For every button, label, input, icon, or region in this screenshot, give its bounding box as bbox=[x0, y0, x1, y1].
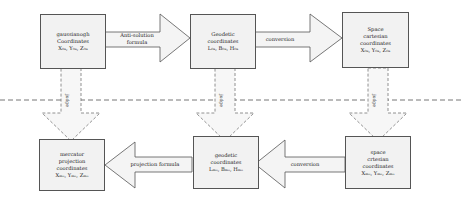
box-line: Coordinates bbox=[57, 38, 89, 45]
label-line: projection formula bbox=[131, 161, 180, 167]
label-anti-solution: Anti-solution formula bbox=[112, 32, 162, 46]
box-line: coordinates bbox=[208, 38, 239, 45]
box-line: Space bbox=[368, 26, 384, 33]
box-line: cartesian bbox=[363, 33, 387, 40]
label-line: conversion bbox=[291, 161, 320, 167]
label-conversion-bottom: conversion bbox=[270, 161, 340, 168]
label-judge-3: judge bbox=[372, 94, 377, 107]
box-line: Lₘₒ, Bₘₒ, Hₘₒ bbox=[209, 166, 243, 173]
vertical-arrow-2 bbox=[196, 68, 254, 141]
box-line: geodetic bbox=[215, 152, 238, 159]
box-line: coordinates bbox=[211, 159, 242, 166]
box-space-cartesian-top: Space cartesian coordinates X₀ₐ, Y₀ₐ, Z₀… bbox=[342, 12, 409, 68]
box-line: X₀ₐ, Y₀ₐ, Z₀ₐ bbox=[58, 45, 88, 52]
box-space-cartesian-bottom: space crtesian coordinates Xₘₒ, Yₘₒ, Zₘₒ bbox=[345, 136, 411, 189]
label-judge-2: judge bbox=[219, 94, 224, 107]
label-conversion-top: conversion bbox=[255, 36, 305, 43]
box-line: Geodetic bbox=[211, 31, 234, 38]
box-line: space bbox=[370, 149, 385, 156]
label-line: Anti-solution bbox=[112, 32, 162, 39]
vertical-arrow-3 bbox=[349, 68, 407, 141]
box-line: L₀ₐ, B₀ₐ, H₀ₐ bbox=[208, 45, 239, 52]
vertical-arrow-1 bbox=[42, 68, 100, 141]
box-line: coordinates bbox=[363, 163, 394, 170]
box-line: crtesian bbox=[367, 156, 388, 163]
box-line: projection bbox=[59, 158, 86, 165]
box-mercator-projection: mercator projection coordinates Xₘₒ, Yₘₒ… bbox=[39, 139, 105, 191]
label-line: conversion bbox=[266, 36, 295, 42]
box-line: coordinates bbox=[360, 40, 391, 47]
label-judge-1: judge bbox=[65, 94, 70, 107]
label-projection-formula: projection formula bbox=[120, 161, 190, 168]
box-line: Xₘₒ, Yₘₒ, Zₘₒ bbox=[362, 170, 395, 177]
box-line: gaussianogh bbox=[57, 31, 90, 38]
label-line: formula bbox=[112, 39, 162, 46]
box-line: X₀ₐ, Y₀ₐ, Z₀ₐ bbox=[361, 47, 391, 54]
box-line: mercator bbox=[60, 151, 84, 158]
box-line: coordinates bbox=[57, 165, 88, 172]
box-gauss-coordinates: gaussianogh Coordinates X₀ₐ, Y₀ₐ, Z₀ₐ bbox=[40, 14, 106, 69]
box-geodetic-bottom: geodetic coordinates Lₘₒ, Bₘₒ, Hₘₒ bbox=[193, 136, 259, 189]
box-geodetic-top: Geodetic coordinates L₀ₐ, B₀ₐ, H₀ₐ bbox=[190, 14, 256, 69]
box-line: Xₘₒ, Yₘₒ, Zₘₒ bbox=[56, 172, 89, 179]
